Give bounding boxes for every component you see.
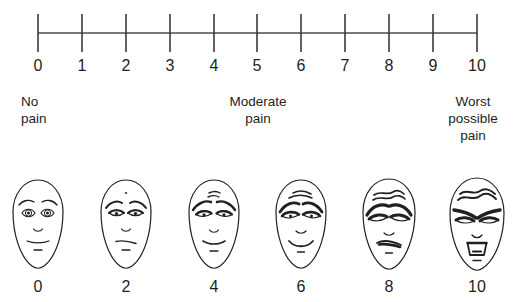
face-label-10[interactable]: 10 — [455, 279, 499, 295]
scale-tick-label-0[interactable]: 0 — [18, 58, 58, 74]
scale-tick-label-10[interactable]: 10 — [457, 58, 497, 74]
face-hit-region-0[interactable] — [10, 176, 66, 272]
scale-tick-label-7[interactable]: 7 — [325, 58, 365, 74]
scale-tick-label-5[interactable]: 5 — [237, 58, 277, 74]
pain-scale-figure: 012345678910 No pain Moderate pain Worst… — [0, 0, 517, 302]
face-label-6[interactable]: 6 — [279, 279, 323, 295]
anchor-label-worst-possible-pain: Worst possible pain — [428, 93, 517, 144]
face-hit-region-8[interactable] — [361, 176, 417, 272]
numeric-rating-scale — [0, 0, 517, 60]
scale-tick-label-9[interactable]: 9 — [413, 58, 453, 74]
scale-tick-label-3[interactable]: 3 — [150, 58, 190, 74]
face-label-4[interactable]: 4 — [192, 279, 236, 295]
face-hit-region-6[interactable] — [273, 176, 329, 272]
scale-tick-label-2[interactable]: 2 — [106, 58, 146, 74]
scale-tick-label-1[interactable]: 1 — [62, 58, 102, 74]
face-hit-region-2[interactable] — [98, 176, 154, 272]
faces-pain-scale — [0, 172, 517, 277]
scale-tick-label-4[interactable]: 4 — [194, 58, 234, 74]
face-label-8[interactable]: 8 — [367, 279, 411, 295]
anchor-label-no-pain: No pain — [21, 93, 47, 127]
scale-tick-label-8[interactable]: 8 — [369, 58, 409, 74]
face-label-2[interactable]: 2 — [104, 279, 148, 295]
face-hit-region-10[interactable] — [449, 176, 505, 272]
scale-tick-label-6[interactable]: 6 — [281, 58, 321, 74]
face-label-0[interactable]: 0 — [16, 279, 60, 295]
face-hit-region-4[interactable] — [186, 176, 242, 272]
anchor-label-moderate-pain: Moderate pain — [198, 93, 318, 127]
